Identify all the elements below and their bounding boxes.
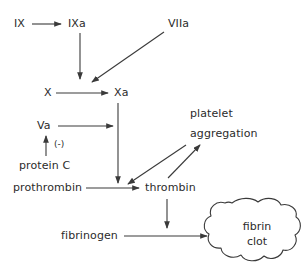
node-label-platelet: platelet [190, 107, 233, 120]
node-label-thrombin: thrombin [145, 181, 196, 194]
node-label-protein-c: protein C [19, 159, 70, 172]
arrow-thrombin-to-aggregation [168, 145, 200, 178]
node-label-viia: VIIa [168, 17, 189, 30]
node-label-aggregation: aggregation [190, 127, 258, 140]
node-label-prothrombin: prothrombin [13, 181, 82, 194]
arrow-thrombin-feedback-to-conversion [128, 145, 186, 184]
node-label-ix: IX [14, 17, 25, 30]
coagulation-cascade-diagram: IX IXa VIIa X Xa Va (-) protein C prothr… [0, 0, 304, 270]
node-label-fibrinogen: fibrinogen [61, 229, 118, 242]
inhibition-sign-label: (-) [54, 139, 64, 149]
node-label-xa: Xa [114, 86, 128, 99]
node-label-va: Va [37, 119, 51, 132]
node-label-ixa: IXa [68, 17, 86, 30]
arrow-viia-to-x [92, 32, 164, 82]
node-label-x: X [44, 86, 52, 99]
node-label-clot: clot [233, 235, 281, 249]
node-label-fibrin: fibrin [233, 220, 281, 234]
